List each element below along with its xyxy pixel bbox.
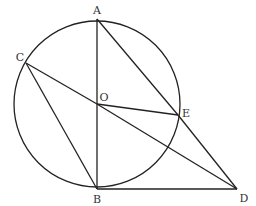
segment-co [26, 63, 97, 104]
label-a: A [92, 4, 102, 17]
label-e: E [182, 107, 190, 120]
segment-od [97, 104, 237, 189]
label-d: D [240, 192, 249, 205]
diagram-svg: A B O C E D [0, 0, 256, 206]
segment-ed [178, 115, 237, 189]
segment-ae [97, 19, 178, 115]
geometry-diagram: A B O C E D [0, 0, 256, 206]
segment-oe [97, 104, 178, 115]
label-o: O [99, 91, 108, 104]
label-c: C [16, 51, 24, 64]
label-b: B [93, 193, 101, 206]
segment-cb [26, 63, 97, 189]
